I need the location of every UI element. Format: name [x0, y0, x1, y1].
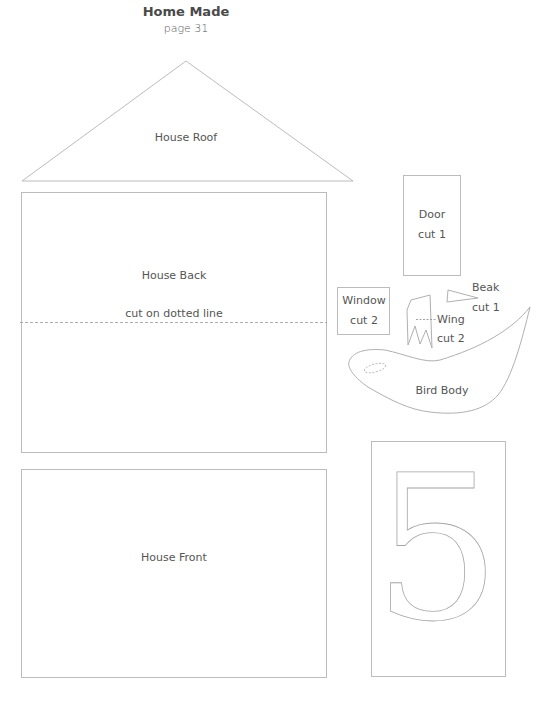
door-label: Door	[404, 207, 460, 222]
window-count: cut 2	[338, 313, 390, 328]
house-back-label: House Back	[124, 268, 224, 283]
cut-instruction-label: cut on dotted line	[114, 306, 234, 321]
house-roof-label: House Roof	[136, 130, 236, 145]
house-front-label: House Front	[124, 550, 224, 565]
window-label: Window	[338, 293, 390, 308]
door-outline	[404, 176, 461, 276]
door-count: cut 1	[404, 227, 460, 242]
bird-body-label: Bird Body	[402, 383, 482, 398]
document-title: Home Made	[126, 4, 246, 19]
wing-count: cut 2	[437, 331, 473, 346]
number-five-outline: 5	[373, 432, 500, 665]
page-number: page 31	[126, 22, 246, 35]
beak-label: Beak	[472, 280, 512, 295]
bird-eye-dotted	[363, 361, 386, 374]
wing-outline	[407, 295, 432, 348]
house-roof-outline	[22, 61, 353, 181]
house-front-outline	[22, 470, 327, 678]
beak-count: cut 1	[472, 300, 512, 315]
wing-label: Wing	[437, 312, 467, 327]
template-canvas: 5	[0, 0, 536, 702]
